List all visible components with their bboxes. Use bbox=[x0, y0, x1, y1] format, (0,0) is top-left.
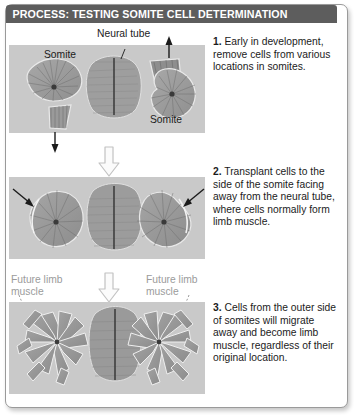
step-3-text: 3. Cells from the outer side of somites … bbox=[213, 302, 341, 365]
neural-tube bbox=[87, 184, 142, 251]
step-1-row: Neural tube Somite Somite bbox=[0, 27, 355, 155]
label-neural-tube: Neural tube bbox=[97, 28, 150, 39]
page-title: PROCESS: TESTING SOMITE CELL DETERMINATI… bbox=[6, 8, 288, 20]
somite-diagram-step3 bbox=[9, 302, 205, 394]
arrow-remove-cells-down bbox=[44, 131, 68, 155]
neural-tube bbox=[86, 56, 141, 118]
arrow-remove-cells-up bbox=[158, 35, 182, 59]
step-1-text: 1. Early in development, remove cells fr… bbox=[213, 36, 341, 74]
step-1-body: Early in development, remove cells from … bbox=[213, 36, 330, 72]
label-somite-left: Somite bbox=[44, 49, 76, 60]
step-2-row: 2. Transplant cells to the side of the s… bbox=[0, 160, 355, 275]
step-1-number: 1. bbox=[213, 36, 222, 47]
somite-left-body bbox=[27, 59, 82, 101]
step-2-body: Transplant cells to the side of the somi… bbox=[213, 166, 335, 227]
somite-right-body bbox=[151, 69, 196, 119]
figure-title-bar: PROCESS: TESTING SOMITE CELL DETERMINATI… bbox=[6, 5, 337, 23]
arrow-transplant-right bbox=[178, 186, 206, 210]
label-somite-right: Somite bbox=[150, 114, 182, 125]
step-2-text: 2. Transplant cells to the side of the s… bbox=[213, 166, 341, 229]
illustration-step-3 bbox=[9, 302, 205, 394]
step-3-number: 3. bbox=[213, 302, 222, 313]
figure-page: PROCESS: TESTING SOMITE CELL DETERMINATI… bbox=[0, 0, 355, 419]
step-3-row: Future limb muscle Future limb muscle bbox=[0, 288, 355, 408]
arrow-transplant-left bbox=[11, 186, 39, 210]
step-2-number: 2. bbox=[213, 166, 222, 177]
somite-left-excised-wedge bbox=[49, 105, 71, 129]
somite-left-dispersing bbox=[17, 310, 88, 385]
step-3-body: Cells from the outer side of somites wil… bbox=[213, 302, 336, 363]
